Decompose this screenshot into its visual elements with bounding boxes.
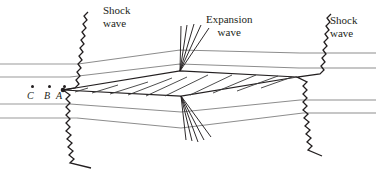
label-shock-wave-right-line2: wave: [330, 27, 358, 40]
point-label-a: A: [56, 90, 62, 101]
expansion-fan-upper: [180, 24, 209, 71]
upstream-streamlines: [0, 64, 78, 118]
expansion-fan-lower: [181, 96, 211, 142]
label-expansion-wave-line2: wave: [206, 26, 252, 39]
label-shock-wave-left-line2: wave: [103, 17, 131, 30]
streamline-deflected-lower-2: [77, 113, 376, 128]
label-shock-wave-right-line1: Shock: [330, 14, 358, 27]
streamline-deflected-lower-1: [70, 100, 376, 112]
diamond-airfoil: [63, 71, 297, 96]
streamline-deflected-upper-1: [78, 50, 376, 64]
label-shock-wave-left-line1: Shock: [103, 4, 131, 17]
point-label-c: C: [27, 90, 34, 101]
point-label-b: B: [44, 90, 50, 101]
airfoil-outline: [63, 71, 297, 96]
label-expansion-wave-line1: Expansion: [206, 13, 252, 26]
point-dot-b: [48, 85, 51, 88]
shock-wave-right: [297, 14, 331, 156]
figure-canvas: Shock wave Expansion wave Shock wave C B…: [0, 0, 376, 177]
label-shock-wave-right: Shock wave: [330, 14, 358, 39]
expansion-ray-lower-5: [181, 96, 211, 137]
point-dot-c: [31, 85, 34, 88]
diagram-svg: [0, 0, 376, 177]
label-shock-wave-left: Shock wave: [103, 4, 131, 29]
expansion-ray-lower-4: [181, 96, 204, 140]
label-expansion-wave: Expansion wave: [206, 13, 252, 38]
point-dot-a: [63, 85, 66, 88]
